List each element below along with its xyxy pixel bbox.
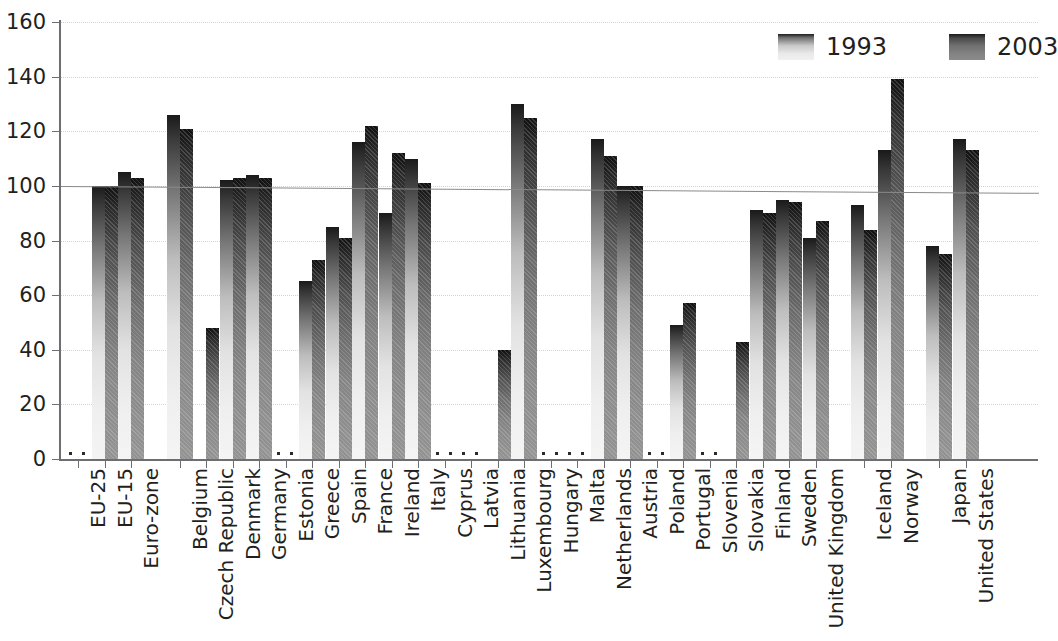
x-axis-tick-mark (604, 459, 605, 468)
bar-group[interactable] (299, 22, 325, 459)
x-axis-label: Denmark (241, 468, 265, 560)
x-axis-tick-mark (471, 459, 472, 468)
x-axis-tick-mark (418, 459, 419, 468)
bar-2003 (339, 238, 352, 459)
bar-group[interactable] (405, 22, 431, 459)
bar-group[interactable] (670, 22, 696, 459)
y-axis-tick-label: 80 (0, 229, 46, 253)
legend-item-1993[interactable]: 1993 (778, 33, 887, 61)
bar-group[interactable] (246, 22, 272, 459)
y-axis-tick-mark (52, 186, 61, 187)
bar-group[interactable] (511, 22, 537, 459)
x-axis-tick-mark (736, 459, 737, 468)
bar-group[interactable] (193, 22, 219, 459)
bar-group[interactable] (803, 22, 829, 459)
bar-2003 (471, 451, 484, 459)
bar-2003 (392, 153, 405, 459)
bar-2003 (864, 230, 877, 459)
x-axis-label: Hungary (559, 468, 583, 553)
bar-group[interactable] (379, 22, 405, 459)
bar-1993 (273, 451, 286, 459)
bar-group[interactable] (644, 22, 670, 459)
bar-2003 (365, 126, 378, 459)
bar-2003 (966, 150, 979, 459)
bar-1993 (670, 325, 683, 459)
bar-group[interactable] (352, 22, 378, 459)
bar-2003 (789, 202, 802, 459)
bar-1993 (776, 200, 789, 459)
bar-group[interactable] (953, 22, 979, 459)
bar-group[interactable] (485, 22, 511, 459)
bar-group[interactable] (92, 22, 118, 459)
bar-group[interactable] (273, 22, 299, 459)
bar-1993 (750, 210, 763, 459)
legend-swatch-1993-icon (778, 34, 814, 60)
legend-item-2003[interactable]: 2003 (949, 33, 1058, 61)
x-axis-label: Netherlands (612, 468, 636, 590)
bar-group[interactable] (118, 22, 144, 459)
x-axis-label: Italy (426, 468, 450, 511)
x-axis-label: Germany (267, 468, 291, 560)
bar-group[interactable] (432, 22, 458, 459)
bar-groups (61, 22, 1040, 459)
bar-2003 (657, 451, 670, 459)
bar-1993 (926, 246, 939, 459)
y-axis-tick-label: 60 (0, 283, 46, 307)
x-axis-label: Euro-zone (139, 468, 163, 569)
x-axis-tick-mark (445, 459, 446, 468)
bar-2003 (286, 451, 299, 459)
x-axis-tick-mark (683, 459, 684, 468)
x-axis-tick-mark (657, 459, 658, 468)
bar-2003 (736, 342, 749, 459)
x-axis-label: Luxembourg (532, 468, 556, 593)
bar-2003 (259, 178, 272, 459)
x-axis-tick-mark (630, 459, 631, 468)
y-axis-tick-mark (52, 131, 61, 132)
bar-1993 (697, 451, 710, 459)
bar-group[interactable] (167, 22, 193, 459)
bar-2003 (78, 451, 91, 459)
bar-group[interactable] (65, 22, 91, 459)
bar-2003 (105, 186, 118, 459)
y-axis-tick-mark (52, 295, 61, 296)
bar-1993 (92, 186, 105, 459)
bar-group[interactable] (750, 22, 776, 459)
x-axis-label: Cyprus (453, 468, 477, 538)
bar-1993 (432, 451, 445, 459)
bar-group[interactable] (926, 22, 952, 459)
x-axis-tick-mark (131, 459, 132, 468)
bar-1993 (723, 451, 736, 459)
y-axis-tick-label: 0 (0, 447, 46, 471)
x-axis-tick-mark (365, 459, 366, 468)
x-axis-label: Malta (585, 468, 609, 523)
bar-2003 (763, 213, 776, 459)
y-axis-tick-mark (52, 22, 61, 23)
bar-1993 (953, 139, 966, 459)
bar-2003 (891, 79, 904, 459)
bar-group[interactable] (591, 22, 617, 459)
bar-2003 (577, 451, 590, 459)
bar-2003 (816, 221, 829, 459)
bar-group[interactable] (851, 22, 877, 459)
bar-group[interactable] (564, 22, 590, 459)
bar-group[interactable] (326, 22, 352, 459)
x-axis-tick-mark (789, 459, 790, 468)
bar-2003 (131, 178, 144, 459)
bar-group[interactable] (723, 22, 749, 459)
bar-group[interactable] (538, 22, 564, 459)
x-axis-tick-mark (105, 459, 106, 468)
bar-group[interactable] (776, 22, 802, 459)
bar-group[interactable] (458, 22, 484, 459)
x-axis-label: Spain (347, 468, 371, 524)
bar-1993 (246, 175, 259, 459)
y-axis-tick-mark (52, 241, 61, 242)
bar-group[interactable] (617, 22, 643, 459)
bar-group[interactable] (878, 22, 904, 459)
y-axis-tick-mark (52, 77, 61, 78)
bar-group[interactable] (220, 22, 246, 459)
x-axis-label: Lithuania (506, 468, 530, 561)
bar-1993 (193, 451, 206, 459)
bar-group[interactable] (697, 22, 723, 459)
x-axis-tick-mark (577, 459, 578, 468)
